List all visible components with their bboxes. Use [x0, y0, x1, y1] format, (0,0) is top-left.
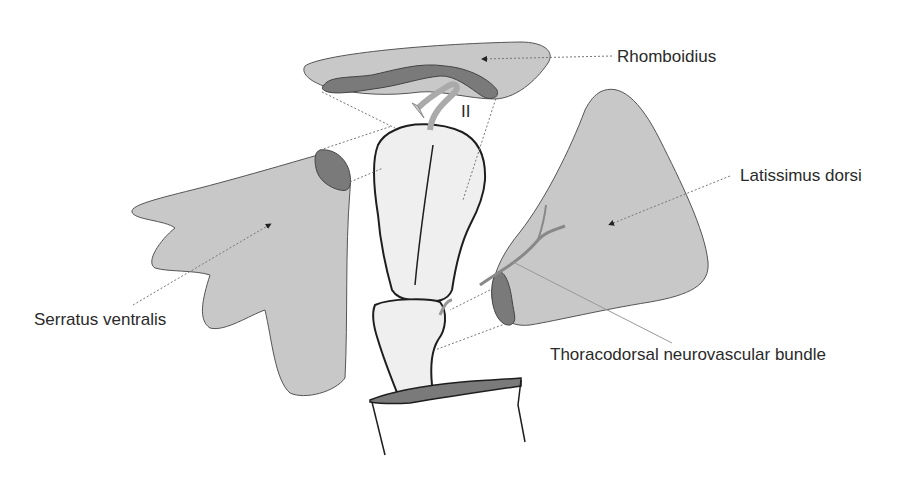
thorax-section [370, 378, 525, 455]
label-serratus-ventralis: Serratus ventralis [34, 310, 166, 330]
scapula-bone [373, 124, 485, 396]
label-rhomboidius: Rhomboidius [617, 47, 716, 67]
serratus-ventralis-muscle [132, 150, 351, 396]
anatomy-diagram [0, 0, 922, 479]
rhomboidius-muscle [304, 42, 550, 99]
latissimus-dorsi-muscle [480, 89, 708, 325]
label-thoracodorsal-bundle: Thoracodorsal neurovascular bundle [550, 345, 826, 365]
label-latissimus-dorsi: Latissimus dorsi [740, 166, 862, 186]
label-roman-numeral: II [461, 102, 470, 122]
